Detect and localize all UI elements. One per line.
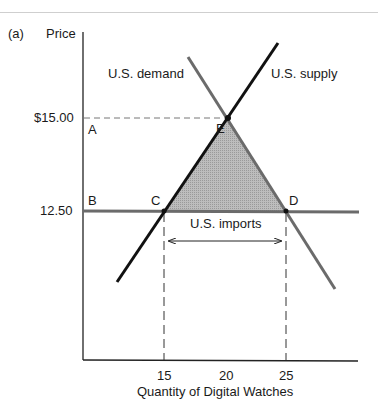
point-a-label: A <box>88 122 97 137</box>
point-e-label: E <box>216 121 225 136</box>
x-tick-15: 15 <box>157 368 171 383</box>
x-tick-25: 25 <box>279 368 293 383</box>
world-price-line <box>83 211 359 212</box>
y-tick-15: $15.00 <box>34 110 74 125</box>
point-d-label: D <box>289 193 298 208</box>
panel-label: (a) <box>8 26 24 41</box>
shaded-region <box>164 118 286 211</box>
point-e <box>225 115 231 121</box>
y-axis-label: Price <box>46 26 76 41</box>
demand-label: U.S. demand <box>108 66 184 81</box>
x-axis <box>83 360 358 361</box>
y-tick-12-50: 12.50 <box>40 203 73 218</box>
point-c-label: C <box>151 193 160 208</box>
point-d <box>284 209 289 214</box>
x-axis-label: Quantity of Digital Watches <box>137 384 293 399</box>
x-tick-20: 20 <box>219 368 233 383</box>
imports-label: U.S. imports <box>190 216 262 231</box>
supply-label: U.S. supply <box>271 66 337 81</box>
point-c <box>162 209 167 214</box>
point-b-label: B <box>88 193 97 208</box>
